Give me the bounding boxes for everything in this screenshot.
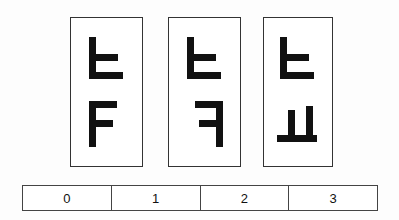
card-0[interactable] [70, 17, 143, 167]
card-1[interactable] [168, 17, 241, 167]
glyph-tieut-stroke-2 [89, 72, 123, 79]
glyph-f-shape-stroke-1 [89, 101, 117, 108]
answer-cell-label: 0 [63, 192, 70, 205]
glyph-tieut-stroke-2 [280, 72, 314, 79]
answer-cell-label: 3 [330, 192, 337, 205]
glyph-tieut-stroke-1 [280, 54, 309, 61]
glyph-kieuk [169, 94, 240, 156]
glyph-tieut [169, 28, 240, 90]
answer-bar: 0123 [22, 185, 378, 211]
answer-cell-3[interactable]: 3 [289, 186, 377, 210]
glyph-kieuk-svg [185, 101, 225, 149]
glyph-yo-stroke-2 [277, 135, 317, 142]
answer-cell-1[interactable]: 1 [112, 186, 201, 210]
glyph-tieut-stroke-1 [89, 54, 118, 61]
glyph-kieuk-stroke-2 [199, 120, 223, 127]
glyph-tieut-svg [278, 37, 318, 81]
glyph-yo [264, 94, 332, 156]
answer-cell-label: 1 [152, 192, 159, 205]
glyph-yo-stroke-0 [288, 110, 295, 136]
glyph-tieut [264, 28, 332, 90]
glyph-tieut-stroke-2 [187, 72, 221, 79]
glyph-tieut-svg [185, 37, 225, 81]
glyph-tieut-svg [87, 37, 127, 81]
glyph-f-shape [71, 94, 142, 156]
glyph-f-shape-svg [87, 101, 127, 149]
answer-cell-label: 2 [241, 192, 248, 205]
glyph-f-shape-stroke-2 [89, 120, 113, 127]
glyph-tieut [71, 28, 142, 90]
glyph-yo-stroke-1 [306, 106, 313, 136]
answer-cell-0[interactable]: 0 [23, 186, 112, 210]
glyph-tieut-stroke-1 [187, 54, 216, 61]
glyph-yo-svg [277, 106, 319, 144]
glyph-kieuk-stroke-1 [195, 101, 223, 108]
answer-cell-2[interactable]: 2 [201, 186, 290, 210]
worksheet-stage: 0123 [0, 0, 399, 220]
card-2[interactable] [263, 17, 333, 167]
